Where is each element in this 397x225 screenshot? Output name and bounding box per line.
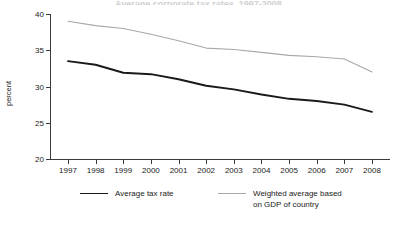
y-tick-label: 40 bbox=[35, 10, 44, 19]
legend-item-0[interactable]: Average tax rate bbox=[80, 188, 174, 199]
legend-label: Weighted average based on GDP of country bbox=[253, 188, 342, 210]
x-tick-label: 1998 bbox=[87, 166, 105, 175]
legend-line-swatch bbox=[218, 193, 246, 194]
y-tick-label: 35 bbox=[35, 46, 44, 55]
series-line-0 bbox=[68, 61, 372, 112]
x-tick-label: 2003 bbox=[225, 166, 243, 175]
chart-figure: Average corporate tax rates, 1997-2008 p… bbox=[0, 0, 397, 225]
x-tick-label: 2000 bbox=[142, 166, 160, 175]
y-tick-label: 25 bbox=[35, 118, 44, 127]
x-tick-label: 2007 bbox=[335, 166, 353, 175]
y-axis-label-text: percent bbox=[5, 80, 14, 105]
legend-item-1[interactable]: Weighted average based on GDP of country bbox=[218, 188, 342, 210]
series-lines bbox=[50, 14, 390, 160]
plot-area: 2025303540 19971998199920002001200220032… bbox=[50, 14, 390, 160]
x-tick-label: 2002 bbox=[197, 166, 215, 175]
chart-legend: Average tax rateWeighted average based o… bbox=[50, 186, 397, 222]
x-tick-label: 1999 bbox=[114, 166, 132, 175]
series-line-1 bbox=[68, 21, 372, 72]
x-tick-label: 2004 bbox=[253, 166, 271, 175]
x-tick-label: 2001 bbox=[170, 166, 188, 175]
x-tick-label: 2005 bbox=[280, 166, 298, 175]
legend-line-swatch bbox=[80, 193, 108, 194]
y-tick-label: 30 bbox=[35, 82, 44, 91]
x-tick-label: 1997 bbox=[59, 166, 77, 175]
y-tick-label: 20 bbox=[35, 155, 44, 164]
legend-label: Average tax rate bbox=[115, 188, 174, 199]
y-axis-label: percent bbox=[2, 58, 16, 128]
chart-title-cropped: Average corporate tax rates, 1997-2008 bbox=[0, 0, 397, 5]
x-tick-label: 2008 bbox=[363, 166, 381, 175]
x-tick-label: 2006 bbox=[308, 166, 326, 175]
